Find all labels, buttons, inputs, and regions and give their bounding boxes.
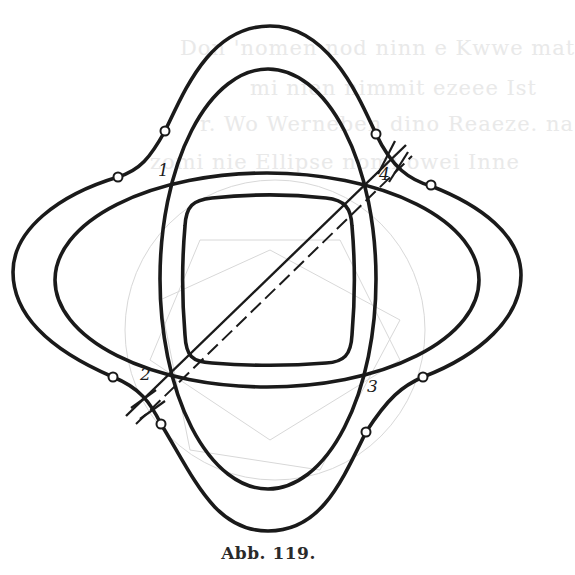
figure-caption: Abb. 119.: [0, 543, 537, 563]
point-label-4: 4: [379, 166, 390, 183]
marker-circle: [161, 127, 170, 136]
faint-background-construction: [125, 180, 425, 480]
marker-circle: [362, 428, 371, 437]
marker-circle: [114, 173, 123, 182]
point-label-1: 1: [158, 162, 169, 179]
marker-circle: [427, 181, 436, 190]
marker-circle: [419, 373, 428, 382]
point-label-2: 2: [140, 366, 151, 383]
point-label-3: 3: [367, 378, 378, 395]
marker-circle: [372, 130, 381, 139]
marker-circle: [109, 373, 118, 382]
marker-circle: [157, 420, 166, 429]
